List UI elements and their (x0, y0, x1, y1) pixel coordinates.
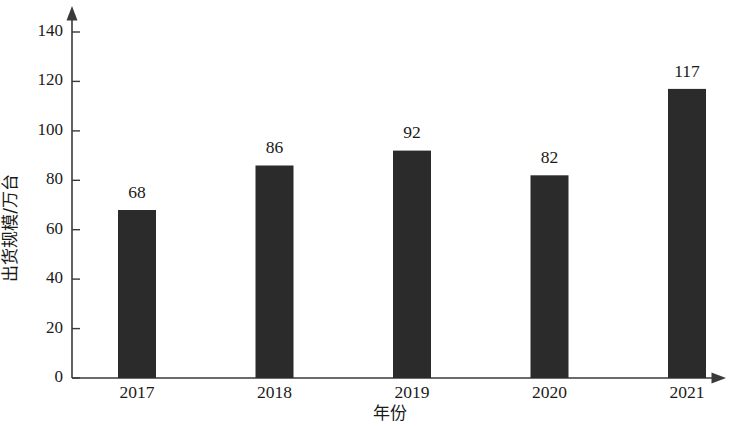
bar-value-label-2019: 92 (403, 122, 421, 142)
y-axis-arrow-icon (67, 6, 78, 21)
y-tick-label-80: 80 (46, 169, 63, 188)
bar-2021 (668, 89, 706, 378)
y-axis-title: 出货规模/万台 (0, 174, 20, 282)
chart-canvas: 0 20 40 60 80 100 120 140 68 86 92 82 11… (0, 0, 730, 429)
bar-value-label-2021: 117 (674, 61, 700, 81)
y-tick-label-40: 40 (46, 268, 63, 287)
y-tick-label-120: 120 (38, 70, 64, 89)
x-tick-label-2017: 2017 (120, 382, 155, 402)
x-axis-title: 年份 (373, 403, 407, 423)
y-tick-label-20: 20 (46, 318, 63, 337)
y-tick-label-0: 0 (55, 367, 64, 386)
bar-2019 (393, 151, 431, 378)
x-axis-arrow-icon (712, 373, 727, 384)
bar-value-label-2020: 82 (541, 147, 559, 167)
x-tick-label-2018: 2018 (257, 382, 292, 402)
x-tick-label-2019: 2019 (395, 382, 430, 402)
bar-2020 (531, 175, 569, 378)
bar-value-label-2018: 86 (266, 137, 284, 157)
bar-2017 (118, 210, 156, 378)
x-tick-label-2021: 2021 (670, 382, 705, 402)
x-tick-label-2020: 2020 (532, 382, 567, 402)
bar-value-label-2017: 68 (128, 182, 146, 202)
y-tick-label-100: 100 (38, 120, 64, 139)
y-tick-label-140: 140 (38, 21, 64, 40)
bar-2018 (256, 166, 294, 379)
y-tick-label-60: 60 (46, 219, 63, 238)
bar-chart-figure: 0 20 40 60 80 100 120 140 68 86 92 82 11… (0, 0, 730, 429)
